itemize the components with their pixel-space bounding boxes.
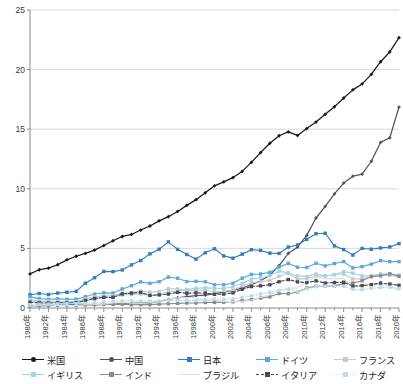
data-point <box>333 262 336 265</box>
data-point <box>121 287 124 290</box>
data-point <box>222 283 225 286</box>
data-point <box>324 284 327 287</box>
legend-item-8[interactable]: イタリア <box>256 368 334 382</box>
data-point <box>342 281 345 284</box>
legend-marker-icon <box>178 355 200 365</box>
legend-label: インド <box>125 368 152 382</box>
legend-item-5[interactable]: イギリス <box>22 368 100 382</box>
data-point <box>139 228 143 232</box>
x-axis-tick-label: 2016年 <box>354 314 364 339</box>
data-point <box>314 262 317 265</box>
data-point <box>351 277 354 280</box>
data-point <box>231 291 234 294</box>
legend-marker-dot <box>265 357 270 362</box>
legend-item-3[interactable]: ドイツ <box>256 353 334 367</box>
legend-marker-icon <box>22 370 44 380</box>
data-point <box>305 287 308 290</box>
legend-item-0[interactable]: 米国 <box>22 353 100 367</box>
data-point <box>397 242 400 245</box>
legend-marker-icon <box>334 370 356 380</box>
data-point <box>28 303 31 306</box>
data-point <box>379 286 382 289</box>
data-point <box>305 238 308 241</box>
data-point <box>28 272 32 276</box>
data-point <box>351 288 354 291</box>
series-line <box>30 107 399 306</box>
data-point <box>360 265 363 268</box>
data-point <box>102 291 105 294</box>
data-point <box>47 293 50 296</box>
data-point <box>305 281 308 284</box>
chart-legend: 米国中国日本ドイツフランス イギリスインドブラジルイタリアカナダ <box>0 352 403 384</box>
chart-container: 05101520251980年1982年1984年1986年1988年1990年… <box>0 0 403 384</box>
data-point <box>379 246 382 249</box>
data-point <box>287 278 290 281</box>
legend-item-2[interactable]: 日本 <box>178 353 256 367</box>
data-point <box>167 287 170 290</box>
data-point <box>74 290 77 293</box>
data-point <box>213 297 216 300</box>
legend-item-7[interactable]: ブラジル <box>178 368 256 382</box>
legend-item-6[interactable]: インド <box>100 368 178 382</box>
data-point <box>277 275 280 278</box>
data-point <box>185 299 188 302</box>
legend-marker-icon <box>22 355 44 365</box>
data-point <box>351 284 354 287</box>
data-point <box>296 243 299 246</box>
data-point <box>37 268 41 272</box>
data-point <box>157 293 160 296</box>
data-point <box>370 283 373 286</box>
data-point <box>213 247 216 250</box>
data-point <box>250 294 253 297</box>
data-point <box>121 299 124 302</box>
data-point <box>148 294 151 297</box>
data-point <box>157 302 160 305</box>
data-point <box>250 281 253 284</box>
legend-marker-dot <box>343 357 348 362</box>
data-point <box>342 270 345 273</box>
x-axis-tick-label: 2000年 <box>207 314 217 339</box>
data-point <box>240 282 243 285</box>
data-point <box>259 284 262 287</box>
data-point <box>324 264 327 267</box>
legend-marker-dot <box>187 357 192 362</box>
data-point <box>204 286 207 289</box>
data-point <box>296 266 299 269</box>
data-point <box>194 280 197 283</box>
data-point <box>222 297 225 300</box>
data-point <box>213 301 216 304</box>
legend-label: 中国 <box>125 353 143 367</box>
data-point <box>213 293 216 296</box>
data-point <box>93 301 96 304</box>
data-point <box>74 254 78 258</box>
data-point <box>176 248 179 251</box>
data-point <box>268 271 271 274</box>
legend-marker-icon <box>334 355 356 365</box>
data-point <box>286 130 290 134</box>
legend-item-4[interactable]: フランス <box>334 353 403 367</box>
legend-marker-icon <box>256 355 278 365</box>
data-point <box>222 254 225 257</box>
data-point <box>388 286 391 289</box>
data-point <box>250 277 253 280</box>
data-point <box>333 281 336 284</box>
legend-item-1[interactable]: 中国 <box>100 353 178 367</box>
data-point <box>176 277 179 280</box>
data-point <box>342 248 345 251</box>
data-point <box>351 281 354 284</box>
data-point <box>148 299 151 302</box>
data-point <box>360 247 363 250</box>
data-point <box>176 299 179 302</box>
data-point <box>157 248 160 251</box>
data-point <box>268 279 271 282</box>
data-point <box>351 266 354 269</box>
data-point <box>305 277 308 280</box>
data-point <box>167 292 170 295</box>
x-axis-tick-label: 1984年 <box>59 314 69 339</box>
data-point <box>139 280 142 283</box>
legend-label: イギリス <box>47 368 83 382</box>
data-point <box>314 279 317 282</box>
legend-marker-icon <box>178 370 200 380</box>
legend-item-9[interactable]: カナダ <box>334 368 403 382</box>
data-point <box>250 285 253 288</box>
